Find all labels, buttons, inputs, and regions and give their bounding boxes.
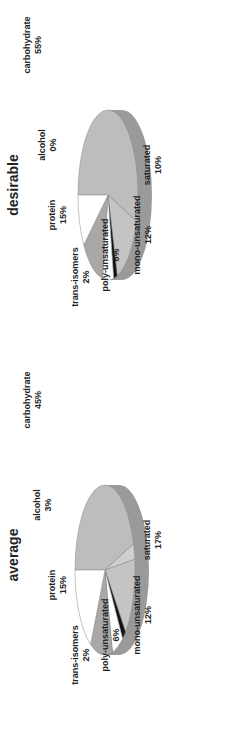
slice-label-alcohol: alcohol0%	[37, 129, 58, 161]
slice-label-saturated: saturated10%	[142, 145, 163, 186]
slice-label-saturated: saturated17%	[142, 520, 163, 561]
rotated-figure: averagecarbohydrate45%alcohol3%protein15…	[0, 0, 228, 745]
chart-title: average	[5, 528, 21, 581]
chart-title: desirable	[5, 154, 21, 216]
slice-label-protein: protein15%	[47, 200, 68, 231]
slice-label-protein: protein15%	[47, 570, 68, 601]
slice-label-carbohydrate: carbohydrate45%	[22, 371, 43, 428]
slice-label-alcohol: alcohol3%	[32, 489, 53, 521]
pie-chart-desirable: desirablecarbohydrate55%alcohol0%protein…	[5, 16, 163, 306]
slice-label-carbohydrate: carbohydrate55%	[22, 16, 43, 73]
pie-figure: averagecarbohydrate45%alcohol3%protein15…	[0, 0, 228, 745]
pie-chart-average: averagecarbohydrate45%alcohol3%protein15…	[5, 371, 163, 684]
